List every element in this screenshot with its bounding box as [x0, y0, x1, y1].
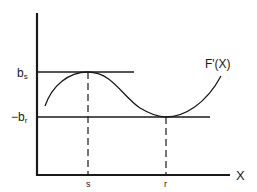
diagram-canvas: bs −br F'(X) X s r	[0, 0, 257, 192]
curve-label: F'(X)	[205, 57, 231, 71]
f-prime-curve	[45, 72, 221, 117]
neg-br-label: −br	[11, 110, 28, 125]
s-tick-label: s	[86, 179, 91, 189]
bs-label: bs	[17, 66, 28, 81]
x-axis-label: X	[236, 168, 245, 183]
r-tick-label: r	[164, 179, 167, 189]
